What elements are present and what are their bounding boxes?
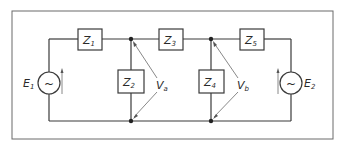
wires	[49, 39, 291, 121]
svg-text:Vb: Vb	[237, 79, 250, 93]
impedance-z2: Z2	[118, 70, 144, 93]
impedance-z5: Z5	[240, 29, 264, 50]
ac-symbol-icon: ~	[286, 77, 296, 91]
node-a-top	[129, 37, 133, 41]
circuit-diagram: Z1 Z3 Z5 Z2 Z4 ~ E1 ~ E2 Va	[0, 0, 342, 149]
ac-symbol-icon: ~	[44, 77, 54, 91]
node-b-top	[209, 37, 213, 41]
voltage-source-e2: ~ E2	[277, 68, 316, 94]
impedance-z3: Z3	[159, 29, 183, 50]
node-b-bottom	[209, 119, 213, 123]
svg-text:Va: Va	[156, 79, 168, 93]
voltage-source-e1: ~ E1	[23, 68, 64, 94]
node-a-bottom	[129, 119, 133, 123]
impedance-z4: Z4	[199, 70, 224, 93]
svg-text:E1: E1	[23, 77, 34, 91]
svg-text:E2: E2	[304, 77, 316, 91]
impedance-z1: Z1	[78, 29, 102, 50]
